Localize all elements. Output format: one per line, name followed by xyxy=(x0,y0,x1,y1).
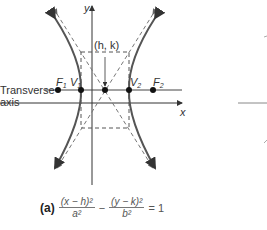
term2-fraction: (y − k)² b² xyxy=(109,196,144,219)
hyperbola-left-branch xyxy=(55,18,81,168)
center-point xyxy=(102,87,108,93)
center-label: (h, k) xyxy=(94,39,119,51)
hyperbola-right-branch xyxy=(129,18,155,168)
second-panel-tick-bottom xyxy=(264,140,267,143)
transverse-axis-label-1: Transverse xyxy=(0,84,55,96)
hyperbola-equation: (a) (x − h)² a² − (y − k)² b² = 1 xyxy=(40,196,164,219)
equation-part-label: (a) xyxy=(40,201,55,215)
second-panel-tick-top xyxy=(264,36,267,37)
term1-fraction: (x − h)² a² xyxy=(59,196,95,219)
equation-rhs: = 1 xyxy=(148,202,164,214)
minus-sign: − xyxy=(99,202,105,214)
y-axis-label: y xyxy=(83,2,91,14)
x-axis-label: x xyxy=(179,106,186,118)
transverse-axis-label-2: axis xyxy=(0,96,20,108)
focus-2-label: F2 xyxy=(153,76,164,89)
vertex-2-label: V2 xyxy=(130,76,141,89)
focus-1-label: F1 xyxy=(56,76,67,89)
